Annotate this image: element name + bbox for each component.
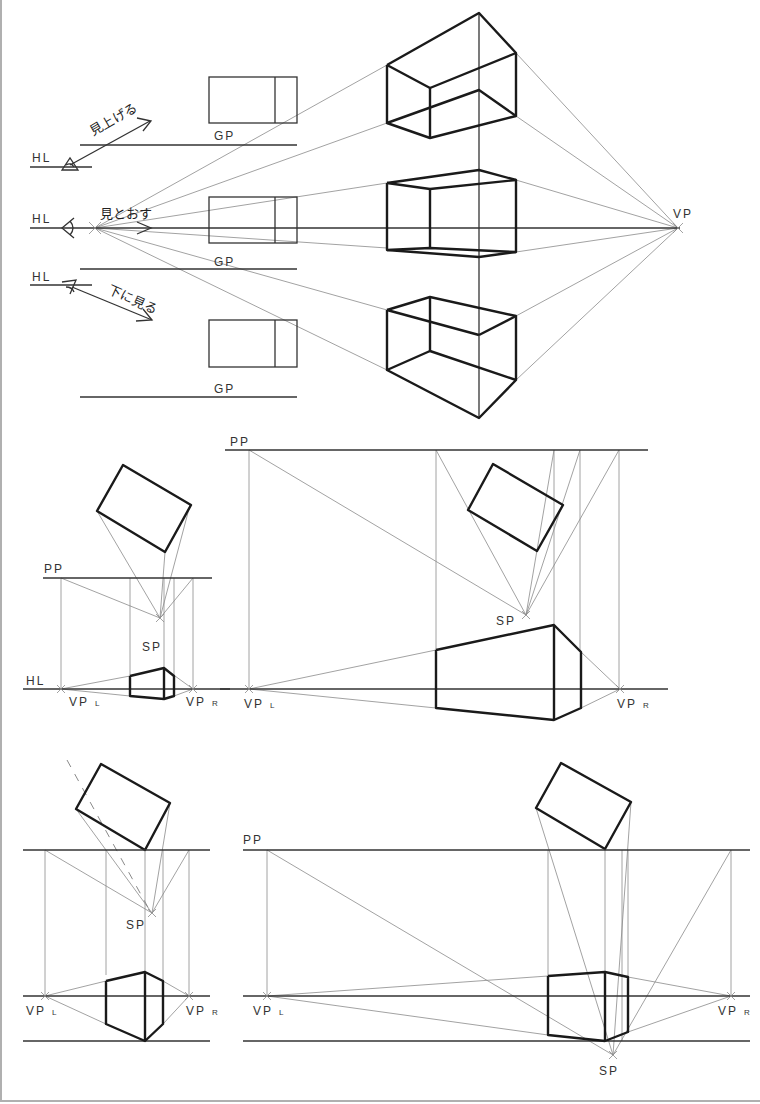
svg-text:R: R [212, 1008, 218, 1017]
svg-text:R: R [744, 1008, 750, 1017]
vp-label: VP [673, 207, 693, 221]
plan-rect-look-down-large [536, 763, 631, 849]
dashed-guide-line [67, 760, 150, 911]
svg-text:VP: VP [617, 697, 637, 711]
hl-label-mid: HL [32, 212, 51, 226]
hl-label-top: HL [32, 151, 51, 165]
svg-text:R: R [212, 699, 218, 708]
section-one-point: VP HL 見上げる GP HL 見とおす GP [30, 13, 693, 418]
svg-text:VP: VP [718, 1004, 738, 1018]
svg-text:SP: SP [126, 918, 146, 932]
svg-text:SP: SP [496, 614, 516, 628]
label-look-through: 見とおす [100, 206, 152, 221]
sp-marker-large: SP [496, 611, 530, 628]
svg-text:SP: SP [142, 640, 162, 654]
svg-text:VP: VP [244, 697, 264, 711]
plan-rect-bottom [209, 320, 297, 367]
svg-text:VP: VP [253, 1004, 273, 1018]
box-large-eye-level [436, 625, 581, 720]
svg-text:L: L [279, 1008, 284, 1017]
sp-marker-look-down-large: SP [599, 1051, 619, 1078]
vanishing-lines [516, 53, 678, 380]
plan-rect-small [97, 465, 191, 552]
box-look-down [387, 297, 516, 418]
box-look-up [387, 13, 516, 138]
hl-label-bottom: HL [32, 270, 51, 284]
svg-text:VP: VP [186, 1004, 206, 1018]
svg-text:VP: VP [69, 695, 89, 709]
sp-marker-small: SP [142, 614, 164, 654]
eye-icon-look-up [62, 158, 78, 170]
box-small-eye-level [130, 668, 174, 699]
svg-text:L: L [52, 1008, 57, 1017]
gp-label-top: GP [214, 129, 235, 143]
box-look-down-large [548, 972, 628, 1041]
gp-label-mid: GP [214, 255, 235, 269]
pp-label-large: PP [230, 435, 250, 449]
perspective-diagram: VP HL 見上げる GP HL 見とおす GP [0, 0, 760, 1104]
svg-text:VP: VP [186, 695, 206, 709]
eye-icon-look-down [62, 280, 76, 294]
hl-label-small: HL [26, 674, 45, 688]
svg-text:R: R [643, 701, 649, 710]
svg-text:VP: VP [26, 1004, 46, 1018]
plan-rect-large [468, 464, 563, 551]
section-two-point-small: PP HL SP VP L VP R [23, 465, 230, 709]
gp-label-bottom: GP [214, 382, 235, 396]
plan-rect-top [209, 77, 297, 123]
pp-label-small: PP [44, 562, 64, 576]
pp-label-look-down-large: PP [243, 833, 263, 847]
svg-text:SP: SP [599, 1064, 619, 1078]
diagram-canvas: VP HL 見上げる GP HL 見とおす GP [0, 0, 760, 1104]
box-look-down-small [106, 972, 163, 1041]
sp-marker-look-down-small: SP [126, 909, 156, 932]
box-look-through [387, 170, 516, 257]
plan-rect-look-down-small [76, 764, 170, 850]
label-look-up: 見上げる [87, 100, 140, 139]
section-two-point-large: PP SP VP L VP R [220, 435, 668, 720]
svg-text:L: L [270, 701, 275, 710]
section-look-down-large: PP SP VP L VP R [243, 763, 750, 1078]
svg-text:L: L [95, 699, 100, 708]
section-look-down-small: SP VP L VP R [23, 760, 218, 1041]
